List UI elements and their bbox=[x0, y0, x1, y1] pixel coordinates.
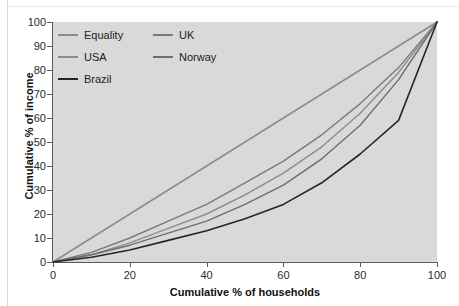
lorenz-curve-figure: 1009080706050403020100 020406080100 Cumu… bbox=[0, 0, 459, 306]
curve-equality bbox=[53, 22, 437, 262]
lorenz-curves bbox=[0, 0, 459, 306]
